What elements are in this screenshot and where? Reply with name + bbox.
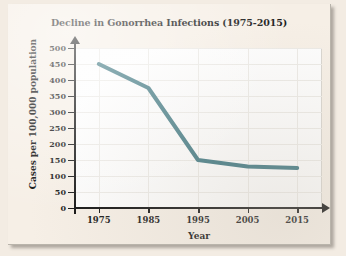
y-axis-title: Cases per 100,000 population: [28, 29, 38, 199]
x-axis-tick-label: 2005: [228, 215, 268, 225]
y-axis-tick-label: 0: [34, 203, 66, 213]
x-axis-tick: [148, 207, 150, 213]
y-axis-tick: [68, 128, 74, 130]
y-axis-tick-label: 300: [34, 107, 66, 117]
y-axis-tick: [68, 64, 74, 66]
y-axis-tick-label: 350: [34, 91, 66, 101]
y-axis-tick-label: 450: [34, 59, 66, 69]
y-axis-tick: [68, 208, 74, 210]
series-polyline: [99, 64, 297, 168]
y-axis-tick: [68, 144, 74, 146]
x-axis-tick-label: 1995: [178, 215, 218, 225]
y-axis-tick-label: 250: [34, 123, 66, 133]
x-axis-tick-label: 1985: [128, 215, 168, 225]
figure-page: Decline in Gonorrhea Infections (1975-20…: [0, 0, 346, 256]
y-axis-arrow-icon: [70, 36, 80, 44]
plot-area: [74, 48, 322, 208]
y-axis-line: [74, 42, 76, 214]
x-axis-tick: [198, 207, 200, 213]
x-axis-tick-label: 2015: [277, 215, 317, 225]
y-axis-tick: [68, 80, 74, 82]
y-axis-tick-label: 100: [34, 171, 66, 181]
scanned-figure-card: Decline in Gonorrhea Infections (1975-20…: [8, 4, 331, 245]
x-axis-tick: [248, 207, 250, 213]
y-axis-tick: [68, 160, 74, 162]
y-axis-tick: [68, 48, 74, 50]
y-axis-tick-label: 50: [34, 187, 66, 197]
y-axis-tick: [68, 176, 74, 178]
x-axis-tick: [99, 207, 101, 213]
x-axis-tick-label: 1975: [79, 215, 119, 225]
y-axis-tick-label: 150: [34, 155, 66, 165]
y-axis-tick-label: 500: [34, 43, 66, 53]
y-axis-tick: [68, 192, 74, 194]
y-axis-tick: [68, 96, 74, 98]
y-axis-tick-label: 400: [34, 75, 66, 85]
y-axis-tick: [68, 112, 74, 114]
x-axis-arrow-icon: [322, 203, 330, 213]
chart-title: Decline in Gonorrhea Infections (1975-20…: [8, 17, 330, 28]
x-axis-title: Year: [74, 231, 324, 241]
y-axis-tick-label: 200: [34, 139, 66, 149]
data-series-line: [74, 48, 322, 208]
x-axis-tick: [297, 207, 299, 213]
